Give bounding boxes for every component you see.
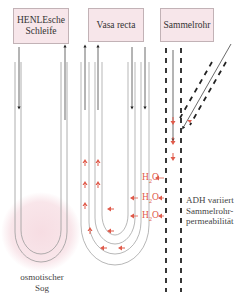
water-label-2: H2O: [142, 192, 159, 204]
vasa-recta-loops: [81, 62, 149, 265]
water-label-3: H2O: [142, 210, 159, 222]
branch-flow-arrow: [183, 44, 231, 128]
water-label-1: H2O: [142, 172, 159, 184]
kidney-countercurrent-diagram: [0, 0, 242, 294]
sammelrohr-duct: [166, 48, 226, 292]
adh-label: ADH variiert Sammelrohr- permeabilität: [186, 195, 234, 227]
osmotic-label: osmotischer Sog: [16, 272, 68, 293]
osmotic-glow: [1, 192, 81, 272]
